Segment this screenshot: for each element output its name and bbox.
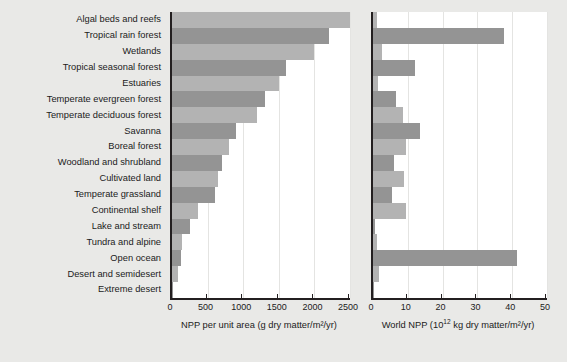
bar-row (373, 123, 547, 139)
bar (373, 234, 377, 250)
gridline (350, 12, 351, 298)
bar-row (172, 123, 350, 139)
bar (172, 187, 215, 203)
bar (373, 123, 420, 139)
x-axis-tick (441, 294, 442, 298)
chart-figure: Algal beds and reefsTropical rain forest… (0, 0, 567, 362)
gridline (547, 12, 548, 298)
bar-row (373, 234, 547, 250)
bar (373, 203, 406, 219)
bar-row (373, 91, 547, 107)
bar-row (172, 282, 350, 298)
bar (373, 219, 375, 235)
bar (373, 187, 392, 203)
category-label: Lake and stream (0, 219, 166, 235)
category-label: Temperate evergreen forest (0, 91, 166, 107)
bar (172, 60, 286, 76)
bar (373, 171, 404, 187)
x-axis-tick-label: 20 (436, 302, 446, 312)
x-axis-tick-label: 2000 (302, 302, 322, 312)
x-axis-tick (170, 294, 171, 298)
bar (172, 219, 190, 235)
bar-row (172, 250, 350, 266)
bar (373, 44, 382, 60)
x-axis-tick (371, 294, 372, 298)
bar (373, 12, 377, 28)
bar-row (172, 139, 350, 155)
bar (172, 250, 181, 266)
bar-row (172, 60, 350, 76)
panel-world-npp (371, 12, 547, 298)
bar-row (172, 28, 350, 44)
category-label: Tropical rain forest (0, 28, 166, 44)
bar (172, 266, 178, 282)
bar-row (373, 155, 547, 171)
bar-row (373, 171, 547, 187)
category-label: Tropical seasonal forest (0, 60, 166, 76)
category-label: Boreal forest (0, 139, 166, 155)
bars-right (373, 12, 547, 298)
bar (172, 28, 329, 44)
bars-left (172, 12, 350, 298)
bar-row (373, 250, 547, 266)
bar (172, 44, 314, 60)
x-axis-tick-label: 0 (167, 302, 172, 312)
bar-row (172, 107, 350, 123)
bar-row (172, 12, 350, 28)
bar (373, 76, 378, 92)
x-axis-tick-label: 1500 (267, 302, 287, 312)
bar-row (373, 219, 547, 235)
bar (172, 171, 218, 187)
bar-row (373, 107, 547, 123)
bar (373, 60, 415, 76)
x-axis-tick-label: 40 (505, 302, 515, 312)
bar (172, 12, 350, 28)
x-axis-title: NPP per unit area (g dry matter/m²/yr) (181, 320, 337, 330)
bar-row (373, 187, 547, 203)
x-axis-tick-label: 50 (540, 302, 550, 312)
bar (373, 266, 379, 282)
x-axis-tick (312, 294, 313, 298)
bar (172, 76, 279, 92)
category-label: Estuaries (0, 76, 166, 92)
bar-row (373, 12, 547, 28)
bar-row (172, 76, 350, 92)
bar (373, 91, 396, 107)
bar (172, 139, 229, 155)
x-axis-tick-label: 10 (401, 302, 411, 312)
bar-row (373, 44, 547, 60)
bar-row (172, 203, 350, 219)
x-axis-tick-label: 30 (470, 302, 480, 312)
bar-row (172, 155, 350, 171)
bar-row (373, 203, 547, 219)
bar (172, 123, 236, 139)
x-axis-line-right (371, 298, 547, 300)
x-axis-tick (241, 294, 242, 298)
category-label: Tundra and alpine (0, 234, 166, 250)
bar (373, 155, 394, 171)
bar-row (172, 44, 350, 60)
x-axis-tick (277, 294, 278, 298)
bar (373, 28, 504, 44)
bar (172, 155, 222, 171)
bar-row (373, 282, 547, 298)
panel-npp-per-unit-area (170, 12, 350, 298)
category-label: Open ocean (0, 250, 166, 266)
bar-row (373, 139, 547, 155)
bar (373, 282, 374, 298)
bar-row (373, 60, 547, 76)
bar-row (373, 76, 547, 92)
bar-row (373, 28, 547, 44)
category-label: Cultivated land (0, 171, 166, 187)
x-axis-tick (348, 294, 349, 298)
x-axis-line-left (170, 298, 350, 300)
x-axis-tick-label: 0 (368, 302, 373, 312)
x-axis-tick-label: 500 (198, 302, 213, 312)
category-label: Woodland and shrubland (0, 155, 166, 171)
bar-row (172, 234, 350, 250)
category-label: Wetlands (0, 44, 166, 60)
category-label: Continental shelf (0, 203, 166, 219)
bar (373, 250, 517, 266)
bar-row (172, 219, 350, 235)
category-label: Algal beds and reefs (0, 12, 166, 28)
